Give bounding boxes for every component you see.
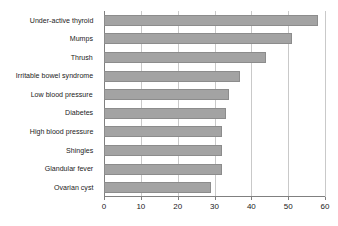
x-axis-tick: [215, 197, 216, 200]
x-axis-tick-label: 60: [321, 202, 330, 211]
x-axis-tick: [178, 197, 179, 200]
category-label: Shingles: [0, 141, 98, 160]
bar: [104, 145, 222, 156]
x-axis-tick-label: 10: [136, 202, 145, 211]
category-label: Ovarian cyst: [0, 178, 98, 197]
category-label-text: Shingles: [66, 147, 93, 155]
bar: [104, 164, 222, 175]
bar-row: [104, 160, 325, 179]
category-label-text: Under-active thyroid: [29, 17, 93, 25]
bar-row: [104, 85, 325, 104]
bar-row: [104, 104, 325, 123]
x-axis-tick: [141, 197, 142, 200]
x-axis: 0102030405060: [104, 197, 325, 219]
category-label-text: Ovarian cyst: [54, 184, 93, 192]
bar: [104, 52, 266, 63]
bar: [104, 89, 229, 100]
plot-area: [104, 11, 325, 197]
bar-row: [104, 123, 325, 142]
category-label-text: Low blood pressure: [31, 91, 93, 99]
category-label-text: Thrush: [71, 54, 93, 62]
category-label: Irritable bowel syndrome: [0, 67, 98, 86]
category-label-text: Mumps: [70, 35, 93, 43]
bar: [104, 108, 226, 119]
category-axis-labels: Under-active thyroidMumpsThrushIrritable…: [0, 11, 98, 197]
category-label: Mumps: [0, 30, 98, 49]
bar: [104, 15, 318, 26]
x-axis-tick: [104, 197, 105, 200]
bar: [104, 33, 292, 44]
category-label-text: High blood pressure: [29, 128, 93, 136]
x-axis-tick-label: 0: [102, 202, 106, 211]
bar-row: [104, 67, 325, 86]
x-axis-tick: [288, 197, 289, 200]
bar: [104, 71, 240, 82]
category-label: High blood pressure: [0, 123, 98, 142]
bar-row: [104, 30, 325, 49]
x-axis-tick-label: 30: [210, 202, 219, 211]
category-label-text: Diabetes: [65, 109, 93, 117]
category-label-text: Irritable bowel syndrome: [16, 72, 93, 80]
bar-chart: Under-active thyroidMumpsThrushIrritable…: [0, 0, 338, 226]
x-axis-tick-label: 20: [173, 202, 182, 211]
bar: [104, 126, 222, 137]
x-axis-tick-label: 50: [284, 202, 293, 211]
x-axis-tick: [325, 197, 326, 200]
bar: [104, 182, 211, 193]
category-label: Glandular fever: [0, 160, 98, 179]
bar-row: [104, 11, 325, 30]
bar-row: [104, 48, 325, 67]
bar-series: [104, 11, 325, 197]
category-label-text: Glandular fever: [44, 165, 93, 173]
category-label: Diabetes: [0, 104, 98, 123]
bar-row: [104, 141, 325, 160]
gridline: [325, 11, 326, 197]
x-axis-tick-label: 40: [247, 202, 256, 211]
x-axis-tick: [251, 197, 252, 200]
category-label: Thrush: [0, 48, 98, 67]
bar-row: [104, 178, 325, 197]
category-label: Low blood pressure: [0, 85, 98, 104]
category-label: Under-active thyroid: [0, 11, 98, 30]
